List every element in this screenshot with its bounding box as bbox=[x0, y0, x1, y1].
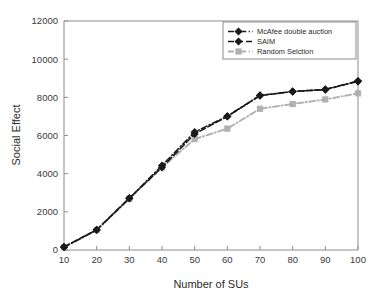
chart-legend: McAfee double auctionSAIMRandom Selction bbox=[223, 22, 356, 59]
y-tick-label: 0 bbox=[53, 244, 58, 255]
x-tick-label: 30 bbox=[124, 254, 135, 265]
chart-figure: 020004000600080001000012000 102030405060… bbox=[0, 0, 377, 297]
y-tick-label: 2000 bbox=[37, 206, 58, 217]
y-tick-label: 6000 bbox=[37, 130, 58, 141]
x-tick-label: 10 bbox=[59, 254, 70, 265]
x-tick-label: 70 bbox=[255, 254, 266, 265]
social-effect-line-chart: 020004000600080001000012000 102030405060… bbox=[0, 0, 377, 297]
x-tick-label: 50 bbox=[189, 254, 200, 265]
x-tick-label: 90 bbox=[320, 254, 331, 265]
legend-label: McAfee double auction bbox=[257, 27, 332, 36]
y-tick-label: 10000 bbox=[32, 54, 58, 65]
y-tick-label: 12000 bbox=[32, 15, 58, 26]
legend-label: Random Selction bbox=[257, 47, 313, 56]
x-tick-label: 40 bbox=[157, 254, 168, 265]
data-point-marker bbox=[236, 49, 241, 54]
legend-label: SAIM bbox=[257, 37, 275, 46]
y-tick-label: 4000 bbox=[37, 168, 58, 179]
x-tick-label: 60 bbox=[222, 254, 233, 265]
x-tick-label: 80 bbox=[287, 254, 298, 265]
x-tick-label: 20 bbox=[91, 254, 102, 265]
data-point-marker bbox=[355, 91, 360, 96]
x-axis-title: Number of SUs bbox=[173, 278, 249, 290]
data-point-marker bbox=[225, 126, 230, 131]
data-point-marker bbox=[257, 106, 262, 111]
x-tick-label: 100 bbox=[350, 254, 366, 265]
y-tick-label: 8000 bbox=[37, 92, 58, 103]
y-axis-title: Social Effect bbox=[10, 105, 22, 166]
data-point-marker bbox=[323, 97, 328, 102]
data-point-marker bbox=[290, 101, 295, 106]
